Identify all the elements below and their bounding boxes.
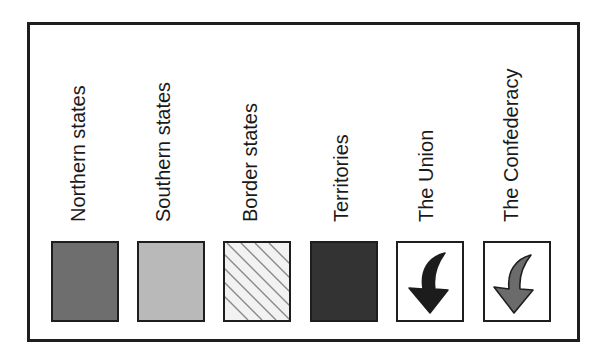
diagonal-hatch-icon [225,243,289,320]
legend-label-the-union: The Union [415,130,437,222]
swatch-border-states [223,241,291,322]
union-curved-arrow-icon [398,243,462,320]
legend-label-northern-states: Northern states [67,85,89,222]
confederacy-curved-arrow-icon [485,243,549,320]
legend-label-the-confederacy: The Confederacy [500,69,522,222]
swatch-the-union [396,241,464,322]
swatch-the-confederacy [483,241,551,322]
legend-label-territories: Territories [330,134,352,222]
legend-label-border-states: Border states [239,103,261,222]
swatch-southern-states [137,241,205,322]
swatch-territories [310,241,378,322]
legend-label-southern-states: Southern states [152,82,174,222]
swatch-northern-states [51,241,119,322]
